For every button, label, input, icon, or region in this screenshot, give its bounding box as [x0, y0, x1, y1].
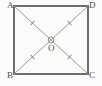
geometry-figure: A D B C O: [0, 0, 102, 86]
center-point-label-o: O: [48, 44, 55, 53]
vertex-label-c: C: [89, 71, 95, 80]
vertex-label-b: B: [7, 71, 13, 80]
vertex-label-d: D: [89, 1, 96, 10]
vertex-label-a: A: [7, 1, 14, 10]
